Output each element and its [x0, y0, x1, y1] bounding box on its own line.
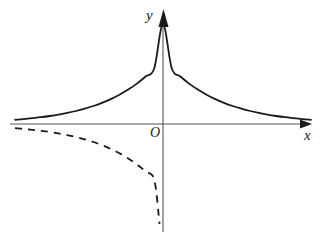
graph-canvas: [0, 0, 324, 248]
x-axis-label: x: [304, 128, 311, 143]
origin-label: O: [150, 126, 160, 140]
y-axis-label: y: [146, 8, 153, 23]
figure-container: y x O: [0, 0, 324, 248]
